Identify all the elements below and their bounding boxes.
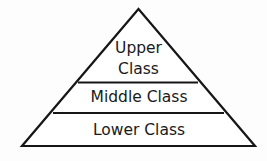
pyramid-graphic: Upper Class Middle Class Lower Class [0, 0, 267, 161]
tier-label-upper-class-line1: Upper [115, 39, 163, 57]
tier-label-upper-class-line2: Class [118, 60, 159, 78]
pyramid-diagram: Upper Class Middle Class Lower Class [0, 0, 267, 161]
tier-label-middle-class: Middle Class [91, 88, 188, 106]
tier-label-lower-class: Lower Class [93, 121, 185, 139]
